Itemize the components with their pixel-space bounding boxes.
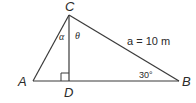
segment-CB xyxy=(69,15,179,81)
angle-label-theta: θ xyxy=(75,30,80,41)
side-label-hypotenuse: a = 10 m xyxy=(127,35,170,47)
right-angle-marker xyxy=(61,73,69,81)
triangle-diagram: C A D B α θ 30° a = 10 m xyxy=(0,0,196,103)
vertex-label-D: D xyxy=(64,85,73,100)
segment-AC xyxy=(33,15,69,81)
angle-label-B: 30° xyxy=(139,70,153,80)
vertex-label-A: A xyxy=(17,74,27,89)
vertex-label-B: B xyxy=(182,74,191,89)
vertex-label-C: C xyxy=(65,0,75,14)
angle-label-alpha: α xyxy=(59,31,65,42)
